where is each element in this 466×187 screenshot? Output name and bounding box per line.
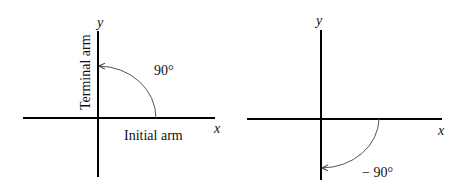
y-axis-label: y: [314, 13, 323, 28]
terminal-arm-label: Terminal arm: [78, 34, 93, 110]
angle-label: − 90°: [362, 165, 393, 180]
angle-label: 90°: [154, 63, 174, 78]
angle-arc-90: [99, 66, 156, 118]
left-diagram: y x 90° Initial arm Terminal arm: [23, 15, 221, 177]
right-diagram: y x − 90°: [247, 13, 445, 180]
x-axis-label: x: [213, 121, 221, 136]
angle-diagrams: y x 90° Initial arm Terminal arm y x − 9…: [0, 0, 466, 187]
y-axis-label: y: [95, 15, 104, 30]
angle-arc-neg-90: [322, 119, 379, 168]
x-axis-label: x: [437, 123, 445, 138]
initial-arm-label: Initial arm: [124, 128, 183, 143]
